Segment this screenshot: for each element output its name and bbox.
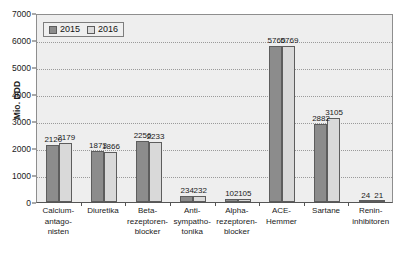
bar-value-label-2016: 232	[183, 186, 217, 195]
y-tick-label-3000: 3000	[0, 117, 31, 127]
y-tick-label-7000: 7000	[0, 9, 31, 19]
bar-group: 28823105	[314, 15, 340, 202]
bar-2016[interactable]	[149, 142, 162, 202]
bar-value-label-2016: 2179	[49, 133, 83, 142]
bar-2015[interactable]	[91, 151, 104, 202]
bar-2016[interactable]	[59, 143, 72, 202]
legend-swatch-2016-icon	[87, 26, 95, 34]
bar-value-label-2016: 105	[228, 189, 262, 198]
bar-value-label-2016: 5769	[272, 36, 306, 45]
x-tick-mark-5	[259, 202, 260, 206]
bar-group: 102105	[225, 15, 251, 202]
y-tick-label-4000: 4000	[0, 90, 31, 100]
x-tick-mark-3	[170, 202, 171, 206]
bar-2016[interactable]	[372, 200, 385, 202]
x-tick-mark-1	[81, 202, 82, 206]
bar-2016[interactable]	[193, 196, 206, 202]
legend-label-2016: 2016	[98, 25, 118, 34]
x-tick-mark-7	[348, 202, 349, 206]
x-axis-label-line: nisten	[32, 227, 84, 238]
bar-2016[interactable]	[282, 46, 295, 202]
bar-value-label-2016: 2233	[139, 132, 173, 141]
bar-chart: Mio. DDD 01000200030004000500060007000 2…	[0, 0, 404, 257]
y-tick-label-5000: 5000	[0, 63, 31, 73]
bars-layer: 2120217918731866225622332342321021055760…	[37, 15, 392, 202]
bar-2015[interactable]	[225, 199, 238, 202]
bar-2016[interactable]	[327, 118, 340, 202]
y-tick-label-1000: 1000	[0, 171, 31, 181]
bar-2015[interactable]	[136, 141, 149, 202]
bar-value-label-2016: 21	[362, 191, 396, 200]
bar-value-label-2016: 3105	[317, 108, 351, 117]
x-axis-labels: Calcium-antago-nistenDiuretikaBeta-rezep…	[36, 206, 393, 256]
bar-2015[interactable]	[180, 196, 193, 202]
legend-item-2015[interactable]: 2015	[49, 25, 80, 34]
legend-swatch-2015-icon	[49, 26, 57, 34]
bar-2015[interactable]	[314, 124, 327, 202]
bar-group: 21202179	[46, 15, 72, 202]
bar-value-label-2016: 1866	[94, 142, 128, 151]
x-axis-label-line: Hemmer	[255, 217, 307, 228]
chart-legend: 2015 2016	[43, 22, 124, 37]
y-tick-label-0: 0	[0, 198, 31, 208]
legend-label-2015: 2015	[60, 25, 80, 34]
bar-2016[interactable]	[104, 152, 117, 202]
x-axis-label-line: Renin-	[345, 206, 397, 217]
x-axis-label-line: blocker	[211, 227, 263, 238]
x-axis-label-line: antago-	[32, 217, 84, 228]
bar-group: 18731866	[91, 15, 117, 202]
x-axis-label-7: Renin-inhibitoren	[345, 206, 397, 227]
x-tick-mark-2	[125, 202, 126, 206]
x-axis-label-line: inhibitoren	[345, 217, 397, 228]
bar-group: 57605769	[269, 15, 295, 202]
bar-2015[interactable]	[46, 145, 59, 202]
bar-2016[interactable]	[238, 199, 251, 202]
x-tick-mark-4	[215, 202, 216, 206]
y-axis: 01000200030004000500060007000	[0, 14, 36, 203]
plot-area: 2120217918731866225622332342321021055760…	[36, 14, 393, 203]
legend-item-2016[interactable]: 2016	[87, 25, 118, 34]
y-tick-label-6000: 6000	[0, 36, 31, 46]
bar-2015[interactable]	[359, 200, 372, 202]
y-tick-label-2000: 2000	[0, 144, 31, 154]
bar-2015[interactable]	[269, 46, 282, 202]
x-tick-mark-6	[304, 202, 305, 206]
bar-group: 2421	[359, 15, 385, 202]
bar-group: 22562233	[136, 15, 162, 202]
bar-group: 234232	[180, 15, 206, 202]
